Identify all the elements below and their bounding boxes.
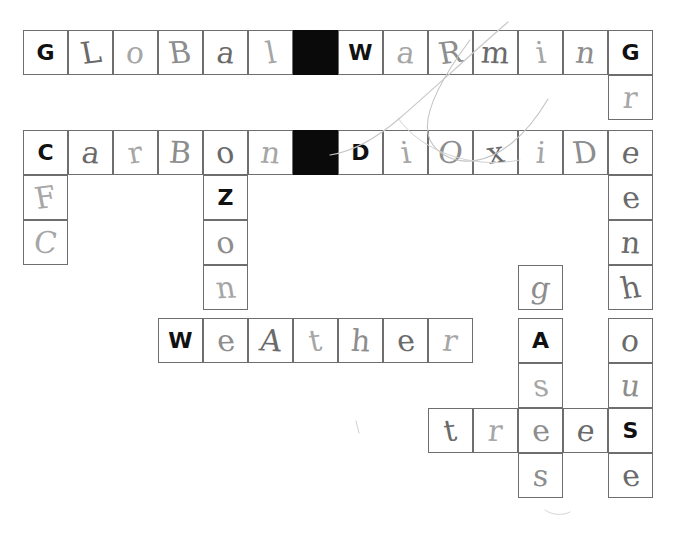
handwritten-letter: o xyxy=(214,227,238,259)
grid-cell[interactable]: h xyxy=(338,318,383,363)
handwritten-letter: r xyxy=(126,137,146,168)
handwritten-letter: o xyxy=(620,325,641,356)
grid-cell[interactable]: W xyxy=(158,318,203,363)
printed-letter: D xyxy=(351,142,369,164)
handwritten-letter: i xyxy=(534,137,546,167)
grid-cell[interactable]: g xyxy=(518,265,563,310)
grid-cell[interactable]: u xyxy=(608,363,653,408)
grid-cell[interactable]: C xyxy=(23,130,68,175)
grid-cell[interactable]: a xyxy=(383,30,428,75)
grid-cell[interactable]: o xyxy=(203,130,248,175)
handwritten-letter: l xyxy=(263,37,278,68)
handwritten-letter: n xyxy=(620,227,642,258)
handwritten-letter: a xyxy=(394,37,417,68)
grid-cell[interactable]: n xyxy=(608,220,653,265)
handwritten-letter: x xyxy=(484,137,507,169)
grid-cell[interactable]: D xyxy=(563,130,608,175)
grid-cell[interactable]: m xyxy=(473,30,518,75)
handwritten-letter: e xyxy=(214,325,236,355)
printed-letter: G xyxy=(621,42,639,64)
grid-cell[interactable]: r xyxy=(428,318,473,363)
grid-cell[interactable]: e xyxy=(563,408,608,453)
grid-cell[interactable]: l xyxy=(248,30,293,75)
handwritten-letter: e xyxy=(619,137,641,168)
handwritten-letter: e xyxy=(619,460,641,490)
printed-letter: G xyxy=(36,42,54,64)
grid-cell[interactable]: A xyxy=(248,318,293,363)
grid-cell[interactable]: r xyxy=(113,130,158,175)
handwritten-letter: t xyxy=(307,325,325,356)
grid-cell[interactable]: s xyxy=(518,453,563,498)
handwritten-letter: B xyxy=(168,137,193,168)
crossword-worksheet: GLoBalWaRminGrCarBonDiOxiDeFZeConnghWeAt… xyxy=(0,0,700,535)
printed-letter: Z xyxy=(218,187,234,209)
handwritten-letter: i xyxy=(398,137,412,167)
grid-cell[interactable]: a xyxy=(203,30,248,75)
grid-cell[interactable]: R xyxy=(428,30,473,75)
handwritten-letter: e xyxy=(574,415,596,446)
handwritten-letter: h xyxy=(350,325,372,356)
grid-cell[interactable]: o xyxy=(113,30,158,75)
grid-cell[interactable]: e xyxy=(608,175,653,220)
handwritten-letter: s xyxy=(530,370,550,400)
grid-cell[interactable]: C xyxy=(23,220,68,265)
grid-cell[interactable]: D xyxy=(338,130,383,175)
grid-cell[interactable]: i xyxy=(518,130,563,175)
handwritten-letter: u xyxy=(618,370,642,401)
printed-letter: W xyxy=(348,42,372,64)
handwritten-letter: t xyxy=(442,415,460,446)
handwritten-letter: C xyxy=(32,227,60,258)
handwritten-letter: o xyxy=(214,137,237,167)
printed-letter: A xyxy=(532,330,549,352)
grid-cell[interactable]: G xyxy=(23,30,68,75)
grid-cell[interactable]: t xyxy=(428,408,473,453)
handwritten-letter: A xyxy=(257,325,283,356)
grid-cell[interactable]: s xyxy=(518,363,563,408)
grid-cell[interactable]: e xyxy=(608,453,653,498)
grid-cell[interactable]: A xyxy=(518,318,563,363)
handwritten-letter: D xyxy=(571,137,600,168)
printed-letter: W xyxy=(168,330,192,352)
grid-cell[interactable]: n xyxy=(248,130,293,175)
grid-cell[interactable]: a xyxy=(68,130,113,175)
grid-cell[interactable]: x xyxy=(473,130,518,175)
handwritten-letter: n xyxy=(258,137,282,168)
grid-cell[interactable]: B xyxy=(158,30,203,75)
grid-cell[interactable]: r xyxy=(473,408,518,453)
handwritten-letter: g xyxy=(529,272,553,303)
grid-cell[interactable]: i xyxy=(383,130,428,175)
printed-letter: S xyxy=(623,420,639,442)
grid-cell[interactable]: e xyxy=(608,130,653,175)
grid-cell[interactable]: n xyxy=(203,265,248,310)
grid-cell[interactable]: h xyxy=(608,265,653,310)
grid-cell[interactable]: i xyxy=(518,30,563,75)
grid-cell[interactable]: Z xyxy=(203,175,248,220)
handwritten-letter: a xyxy=(79,137,102,168)
grid-cell[interactable]: e xyxy=(518,408,563,453)
grid-cell[interactable]: G xyxy=(608,30,653,75)
handwritten-letter: R xyxy=(436,36,464,68)
grid-cell[interactable]: F xyxy=(23,175,68,220)
handwritten-letter: r xyxy=(441,325,460,356)
grid-cell[interactable]: r xyxy=(608,75,653,120)
handwritten-letter: h xyxy=(618,272,643,304)
handwritten-letter: a xyxy=(214,37,237,68)
crossword-grid[interactable]: GLoBalWaRminGrCarBonDiOxiDeFZeConnghWeAt… xyxy=(0,0,700,535)
grid-cell[interactable]: o xyxy=(608,318,653,363)
grid-cell[interactable]: n xyxy=(563,30,608,75)
handwritten-letter: F xyxy=(32,181,58,213)
grid-cell[interactable]: L xyxy=(68,30,113,75)
grid-cell[interactable]: e xyxy=(203,318,248,363)
grid-cell[interactable]: t xyxy=(293,318,338,363)
grid-cell[interactable]: e xyxy=(383,318,428,363)
handwritten-letter: e xyxy=(394,325,416,355)
grid-cell[interactable]: B xyxy=(158,130,203,175)
grid-cell[interactable]: W xyxy=(338,30,383,75)
handwritten-letter: e xyxy=(619,182,641,212)
handwritten-letter: B xyxy=(167,37,194,68)
handwritten-letter: i xyxy=(533,37,547,67)
grid-cell[interactable]: o xyxy=(203,220,248,265)
grid-cell[interactable]: S xyxy=(608,408,653,453)
handwritten-letter: o xyxy=(125,37,146,68)
grid-cell[interactable]: O xyxy=(428,130,473,175)
